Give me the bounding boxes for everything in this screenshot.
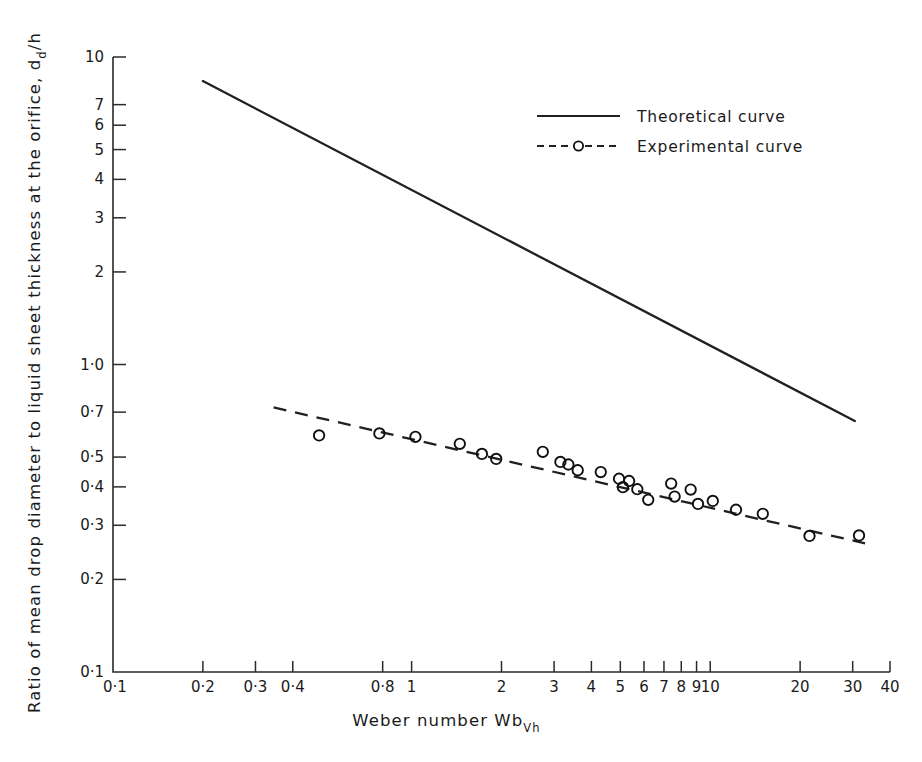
- x-tick-label: 1: [407, 678, 417, 696]
- x-tick-label: 7: [659, 678, 669, 696]
- data-point-marker: [455, 439, 465, 449]
- y-tick-label: 0·2: [80, 570, 104, 588]
- y-tick-label: 6: [94, 116, 104, 134]
- x-tick-label: 2: [497, 678, 507, 696]
- y-tick-label: 0·1: [80, 663, 104, 681]
- x-tick-label: 6: [639, 678, 649, 696]
- y-tick-group: 0·10·20·30·40·50·71·023456710: [80, 48, 126, 681]
- chart-figure: 0·10·20·30·40·812345678910203040 0·10·20…: [0, 0, 922, 762]
- data-point-marker: [314, 430, 324, 440]
- y-tick-label: 7: [94, 96, 104, 114]
- y-tick-label: 0·3: [80, 516, 104, 534]
- data-point-marker: [632, 484, 642, 494]
- x-tick-label: 3: [549, 678, 559, 696]
- y-tick-label: 5: [94, 141, 104, 159]
- x-tick-label: 0·3: [244, 678, 268, 696]
- y-tick-label: 0·7: [80, 403, 104, 421]
- y-tick-label: 2: [94, 263, 104, 281]
- chart-svg: 0·10·20·30·40·812345678910203040 0·10·20…: [0, 0, 922, 762]
- x-tick-label: 0·1: [103, 678, 127, 696]
- data-point-marker: [708, 496, 718, 506]
- experimental-data-points: [314, 428, 864, 541]
- x-tick-label: 20: [791, 678, 810, 696]
- data-point-marker: [666, 478, 676, 488]
- axis-titles: Weber number WbVhRatio of mean drop diam…: [25, 32, 541, 735]
- data-point-marker: [624, 476, 634, 486]
- data-point-marker: [573, 465, 583, 475]
- x-tick-label: 10: [701, 678, 720, 696]
- y-axis-title-sub: d: [35, 50, 49, 58]
- y-tick-label: 0·5: [80, 448, 104, 466]
- x-tick-group: 0·10·20·30·40·812345678910203040: [103, 661, 899, 696]
- data-point-marker: [854, 530, 864, 540]
- x-tick-label: 40: [880, 678, 899, 696]
- x-tick-label: 0·2: [191, 678, 215, 696]
- legend-label-experimental: Experimental curve: [637, 138, 803, 156]
- x-axis-title: Weber number WbVh: [352, 711, 540, 735]
- y-tick-label: 0·4: [80, 478, 104, 496]
- x-tick-label: 0·8: [371, 678, 395, 696]
- data-point-marker: [693, 499, 703, 509]
- x-tick-label: 4: [587, 678, 597, 696]
- y-axis-title: Ratio of mean drop diameter to liquid sh…: [25, 32, 49, 713]
- theoretical-curve: [203, 81, 855, 421]
- legend-label-theoretical: Theoretical curve: [636, 108, 786, 126]
- experimental-line: [274, 407, 865, 543]
- data-point-marker: [804, 531, 814, 541]
- x-tick-label: 5: [616, 678, 626, 696]
- y-tick-label: 3: [94, 209, 104, 227]
- data-point-marker: [758, 509, 768, 519]
- x-tick-label: 30: [843, 678, 862, 696]
- experimental-curve-line: [274, 407, 865, 543]
- legend-circle-marker: [574, 141, 583, 150]
- data-point-marker: [596, 467, 606, 477]
- y-axis-title-main: Ratio of mean drop diameter to liquid sh…: [25, 59, 44, 713]
- chart-legend: Theoretical curveExperimental curve: [537, 108, 803, 156]
- data-point-marker: [410, 432, 420, 442]
- data-point-marker: [685, 484, 695, 494]
- x-axis-title-main: Weber number Wb: [352, 711, 523, 730]
- theoretical-line: [203, 81, 855, 421]
- data-point-marker: [669, 491, 679, 501]
- data-point-marker: [643, 495, 653, 505]
- y-tick-label: 4: [94, 170, 104, 188]
- x-tick-label: 0·4: [281, 678, 305, 696]
- x-tick-label: 8: [677, 678, 687, 696]
- x-axis-title-sub: Vh: [523, 721, 540, 735]
- y-tick-label: 1·0: [80, 356, 104, 374]
- y-axis-title-tail: /h: [25, 32, 44, 50]
- data-point-marker: [538, 447, 548, 457]
- y-tick-label: 10: [85, 48, 104, 66]
